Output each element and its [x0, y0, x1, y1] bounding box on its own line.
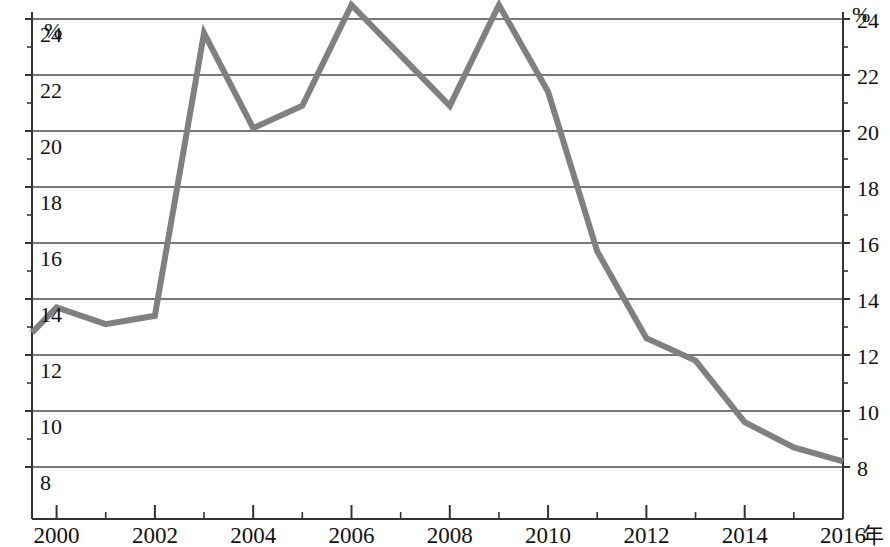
y-axis-right-labels: 81012141618202224 — [857, 8, 879, 481]
x-axis-tick-label-2016: 2016 — [820, 523, 866, 547]
x-axis-tick-label-2006: 2006 — [328, 523, 374, 547]
y-axis-left-tick-label-12: 12 — [40, 358, 62, 383]
y-axis-left-tick-label-18: 18 — [40, 190, 62, 215]
x-axis-tick-label-2002: 2002 — [132, 523, 178, 547]
y-axis-right-tick-label-12: 12 — [857, 344, 879, 369]
y-axis-left-tick-label-20: 20 — [40, 134, 62, 159]
y-axis-left-tick-label-10: 10 — [40, 414, 62, 439]
x-axis-tick-label-2010: 2010 — [525, 523, 571, 547]
y-axis-left-tick-label-14: 14 — [40, 302, 62, 327]
x-axis-tick-label-2004: 2004 — [230, 523, 277, 547]
y-axis-right-tick-label-18: 18 — [857, 176, 879, 201]
x-axis-labels: 200020022004200620082010201220142016 — [34, 523, 866, 547]
x-axis-tick-label-2014: 2014 — [722, 523, 769, 547]
y-axis-left-labels: 81012141618202224 — [40, 22, 62, 495]
x-axis-tick-label-2000: 2000 — [34, 523, 80, 547]
x-axis-unit-label: 年 — [862, 523, 884, 547]
y-axis-right-tick-label-14: 14 — [857, 288, 879, 313]
y-axis-right-tick-label-22: 22 — [857, 64, 879, 89]
gridlines-group — [32, 19, 843, 467]
data-line-series-0 — [32, 5, 843, 461]
y-axis-left-tick-label-8: 8 — [40, 470, 51, 495]
y-axis-right-ticks — [843, 19, 850, 467]
axis-lines-group — [32, 12, 843, 519]
y-axis-right-tick-label-8: 8 — [857, 456, 868, 481]
x-axis-tick-label-2012: 2012 — [623, 523, 669, 547]
y-axis-left-ticks — [25, 19, 32, 467]
x-axis-tick-label-2008: 2008 — [427, 523, 473, 547]
y-axis-left-tick-label-22: 22 — [40, 78, 62, 103]
y-axis-right-tick-label-16: 16 — [857, 232, 879, 257]
y-axis-right-tick-label-20: 20 — [857, 120, 879, 145]
y-axis-right-unit-label: % — [852, 2, 870, 27]
data-series-group — [32, 5, 843, 461]
y-axis-left-unit-label: % — [44, 18, 62, 43]
line-chart: 81012141618202224 81012141618202224 2000… — [0, 0, 890, 547]
y-axis-left-tick-label-16: 16 — [40, 246, 62, 271]
y-axis-right-tick-label-10: 10 — [857, 400, 879, 425]
chart-container: 81012141618202224 81012141618202224 2000… — [0, 0, 890, 547]
x-axis-ticks — [57, 505, 843, 519]
